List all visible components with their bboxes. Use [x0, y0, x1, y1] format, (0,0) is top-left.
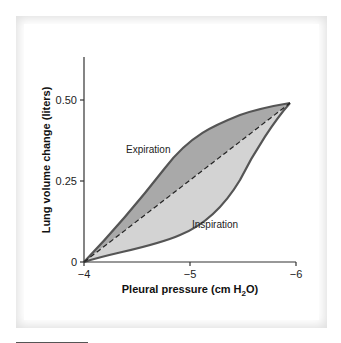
- y-axis-title: Lung volume change (liters): [40, 86, 52, 233]
- y-tick-label: 0.25: [56, 175, 77, 187]
- x-tick-label: −5: [184, 268, 197, 280]
- x-tick-label: −4: [78, 268, 91, 280]
- y-tick-label: 0.50: [56, 94, 77, 106]
- pv-loop-chart: 0.50 0.25 0 −4 −5 −6 Pleural pressure (c…: [0, 0, 341, 343]
- y-tick-label: 0: [71, 256, 77, 268]
- expiration-label: Expiration: [126, 144, 170, 155]
- x-tick-label: −6: [290, 268, 303, 280]
- x-axis-title: Pleural pressure (cm H2O): [122, 283, 259, 298]
- inspiration-label: Inspiration: [192, 219, 238, 230]
